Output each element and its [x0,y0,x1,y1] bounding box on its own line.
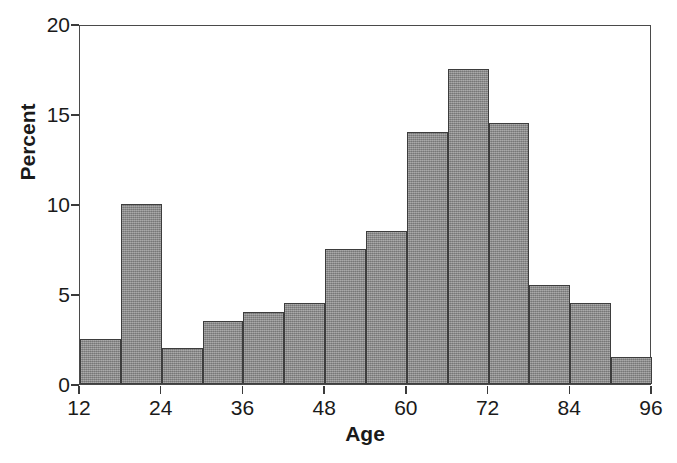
histogram-bar [529,285,570,384]
histogram-bar [162,348,203,384]
histogram-bar [448,69,489,384]
x-axis-title: Age [79,422,651,446]
histogram-bar [489,123,530,384]
y-tick-label: 10 [36,194,70,215]
y-tick-mark [71,114,79,116]
histogram-bar [407,132,448,384]
histogram-bar [121,204,162,384]
x-tick-label: 60 [376,396,436,420]
y-tick-label: 15 [36,104,70,125]
histogram-figure: Percent 05101520 1224364860728496 Age [0,0,677,463]
x-tick-label: 36 [212,396,272,420]
x-tick-mark [78,386,80,394]
y-tick-mark [71,24,79,26]
y-tick-mark [71,204,79,206]
x-tick-label: 84 [539,396,599,420]
y-tick-mark [71,294,79,296]
x-tick-mark [405,386,407,394]
x-tick-mark [160,386,162,394]
y-tick-label: 20 [36,14,70,35]
x-tick-mark [242,386,244,394]
histogram-bar [284,303,325,384]
bar-series [80,26,650,384]
plot-area [79,25,651,385]
x-tick-label: 72 [458,396,518,420]
x-tick-label: 48 [294,396,354,420]
x-tick-label: 96 [621,396,677,420]
histogram-bar [203,321,244,384]
figure-caption [8,449,668,463]
x-tick-mark [323,386,325,394]
y-axis-tick-labels: 05101520 [36,0,70,463]
histogram-bar [243,312,284,384]
x-tick-mark [650,386,652,394]
histogram-bar [570,303,611,384]
histogram-bar [611,357,652,384]
x-axis-tick-labels: 1224364860728496 [0,396,677,424]
x-tick-label: 12 [49,396,109,420]
x-tick-mark [487,386,489,394]
x-tick-label: 24 [131,396,191,420]
x-tick-mark [569,386,571,394]
histogram-bar [325,249,366,384]
histogram-bar [80,339,121,384]
y-tick-label: 0 [36,374,70,395]
histogram-bar [366,231,407,384]
y-tick-label: 5 [36,284,70,305]
